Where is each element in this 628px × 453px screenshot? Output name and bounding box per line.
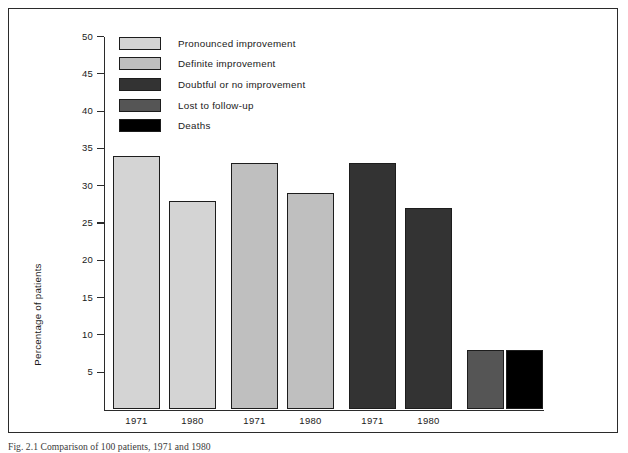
bar: [349, 163, 396, 409]
legend-swatch: [119, 99, 161, 112]
legend-label: Doubtful or no improvement: [178, 79, 305, 90]
legend-label: Deaths: [178, 120, 211, 131]
y-axis-tick: [97, 73, 104, 74]
legend-swatch: [119, 78, 161, 91]
bar: [506, 350, 543, 410]
bar: [467, 350, 504, 410]
y-axis-tick: [97, 334, 104, 335]
y-axis-tick-label: 20: [53, 255, 93, 265]
x-axis-tick-label: 1980: [287, 415, 334, 426]
legend-label: Pronounced improvement: [178, 38, 296, 49]
legend-swatch: [119, 37, 161, 50]
y-axis-tick: [97, 111, 104, 112]
legend-item-3: Doubtful or no improvement: [119, 74, 305, 95]
y-axis-tick: [97, 260, 104, 261]
legend-item-5: Deaths: [119, 115, 305, 136]
chart-legend: Pronounced improvementDefinite improveme…: [119, 33, 305, 136]
bar: [405, 208, 452, 409]
y-axis-tick-label: 45: [53, 69, 93, 79]
y-axis-line: [104, 37, 105, 410]
y-axis-tick-label: 50: [53, 32, 93, 42]
y-axis-tick: [97, 222, 104, 223]
x-axis-line: [104, 410, 544, 411]
legend-label: Definite improvement: [178, 58, 276, 69]
legend-item-2: Definite improvement: [119, 54, 305, 75]
y-axis-title: Percentage of patients: [32, 235, 43, 395]
legend-item-4: Lost to follow-up: [119, 95, 305, 116]
x-axis-tick-label: 1980: [169, 415, 216, 426]
y-axis-tick: [97, 372, 104, 373]
legend-swatch: [119, 119, 161, 132]
y-axis-tick-label: 40: [53, 106, 93, 116]
figure-caption-text: Fig. 2.1 Comparison of 100 patients, 197…: [8, 441, 626, 452]
x-axis-tick-label: 1971: [349, 415, 396, 426]
bar: [169, 201, 216, 410]
y-axis-tick-label: 10: [53, 330, 93, 340]
y-axis-tick: [97, 36, 104, 37]
y-axis-tick-label: 5: [53, 367, 93, 377]
y-axis-tick: [97, 297, 104, 298]
y-axis-tick-label: 35: [53, 143, 93, 153]
x-axis-tick-label: 1971: [113, 415, 160, 426]
bar-chart-plot-area: Percentage of patients 50454035302520151…: [9, 9, 619, 434]
figure-caption: Fig. 2.1 Comparison of 100 patients, 197…: [8, 441, 626, 453]
legend-label: Lost to follow-up: [178, 100, 254, 111]
y-axis-tick-label: 15: [53, 293, 93, 303]
y-axis-tick: [97, 185, 104, 186]
figure-frame: Percentage of patients 50454035302520151…: [8, 8, 618, 433]
y-axis-tick: [97, 148, 104, 149]
legend-item-1: Pronounced improvement: [119, 33, 305, 54]
x-axis-tick-label: 1980: [405, 415, 452, 426]
y-axis-tick-label: 25: [53, 218, 93, 228]
bar: [287, 193, 334, 409]
y-axis-tick-label: 30: [53, 181, 93, 191]
bar: [113, 156, 160, 410]
legend-swatch: [119, 57, 161, 70]
x-axis-tick-label: 1971: [231, 415, 278, 426]
bar: [231, 163, 278, 409]
